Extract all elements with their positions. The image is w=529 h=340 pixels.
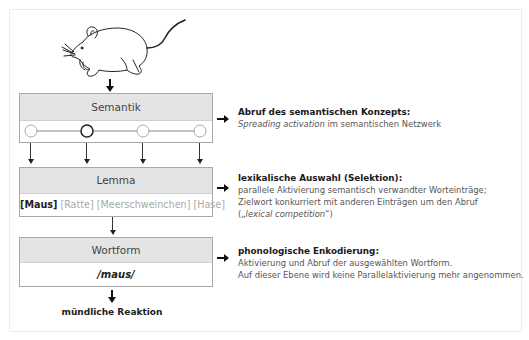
output-label: mündliche Reaktion (52, 307, 172, 317)
lemma-candidate: [Meerschweinchen] (97, 199, 191, 210)
right-arrow-icon (217, 253, 230, 263)
lemma-description: lexikalische Auswahl (Selektion): parall… (238, 172, 487, 220)
lemma-candidate: [Ratte] (60, 199, 93, 210)
semantic-node (25, 125, 37, 137)
activation-arrow-2 (86, 143, 87, 160)
arrowhead-lemma (110, 230, 116, 235)
input-arrow-head (106, 86, 114, 92)
wortform-description: phonologische Enkodierung: Aktivierung u… (238, 245, 524, 281)
right-arrow-icon (217, 183, 230, 193)
semantik-box: Semantik (19, 93, 213, 143)
right-arrow-icon (217, 114, 230, 124)
lemma-description-line: parallele Aktivierung semantisch verwand… (238, 184, 487, 196)
lemma-candidates: [Maus] [Ratte] [Meerschweinchen] [Hase] (20, 194, 212, 216)
wortform-description-line: Aktivierung und Abruf der ausgewählten W… (238, 257, 524, 269)
semantic-node (194, 125, 206, 137)
mouse-icon (55, 14, 195, 84)
semantik-description-title: Abruf des semantischen Konzepts: (238, 106, 441, 118)
semantic-node (137, 125, 149, 137)
arrowhead-1 (28, 159, 34, 164)
wortform-header: Wortform (20, 238, 212, 263)
wortform-description-title: phonologische Enkodierung: (238, 245, 524, 257)
lemma-to-wortform-arrow (112, 217, 113, 231)
arrowhead-3 (140, 159, 146, 164)
arrowhead-2 (84, 159, 90, 164)
semantic-node-active (81, 125, 93, 137)
output-arrow-head (108, 297, 116, 303)
lemma-candidate: [Hase] (193, 199, 224, 210)
semantic-network (20, 121, 212, 143)
arrowhead-4 (197, 159, 203, 164)
wortform-value: /maus/ (20, 263, 212, 286)
lemma-description-line: („lexical competition“) (238, 208, 487, 220)
activation-arrow-4 (199, 143, 200, 160)
lemma-description-title: lexikalische Auswahl (Selektion): (238, 172, 487, 184)
lemma-description-line: Zielwort konkurriert mit anderen Einträg… (238, 196, 487, 208)
lemma-candidate-selected: [Maus] (20, 199, 57, 210)
semantik-header: Semantik (20, 94, 212, 121)
lemma-box: Lemma [Maus] [Ratte] [Meerschweinchen] [… (19, 167, 213, 217)
wortform-box: Wortform /maus/ (19, 237, 213, 287)
semantik-description-line: Spreading activation im semantischen Net… (238, 118, 441, 130)
lemma-header: Lemma (20, 168, 212, 194)
wortform-description-line: Auf dieser Ebene wird keine Parallelakti… (238, 269, 524, 281)
activation-arrow-1 (30, 143, 31, 160)
semantik-description: Abruf des semantischen Konzepts: Spreadi… (238, 106, 441, 130)
activation-arrow-3 (142, 143, 143, 160)
